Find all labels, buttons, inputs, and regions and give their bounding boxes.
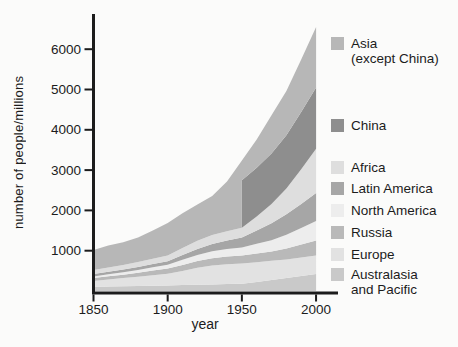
y-tick: [85, 48, 93, 50]
x-tick-label: 1900: [153, 302, 183, 317]
x-tick-label: 1950: [227, 302, 257, 317]
x-tick: [241, 295, 243, 302]
legend-swatch-europe: [331, 248, 344, 261]
x-tick: [167, 295, 169, 302]
x-axis-line: [92, 292, 338, 295]
legend-label-latin_america: Latin America: [351, 181, 433, 196]
legend-label-africa: Africa: [351, 160, 386, 175]
legend-label-australasia_pacific: Australasia and Pacific: [351, 267, 418, 297]
chart-legend: Asia (except China)ChinaAfricaLatin Amer…: [331, 36, 457, 297]
y-axis-line: [92, 14, 95, 294]
legend-swatch-china: [331, 119, 344, 132]
y-tick-label: 2000: [51, 203, 81, 218]
legend-swatch-africa: [331, 161, 344, 174]
x-tick: [315, 295, 317, 302]
y-tick: [85, 250, 93, 252]
legend-label-north_america: North America: [351, 203, 437, 218]
x-tick-label: 2000: [301, 302, 331, 317]
legend-item-europe: Europe: [331, 247, 457, 262]
y-tick-label: 3000: [51, 163, 81, 178]
y-tick: [85, 169, 93, 171]
legend-item-asia_except_china: Asia (except China): [331, 36, 457, 66]
legend-label-asia_except_china: Asia (except China): [351, 36, 439, 66]
y-tick-label: 5000: [51, 82, 81, 97]
legend-label-europe: Europe: [351, 247, 395, 262]
y-tick-label: 4000: [51, 122, 81, 137]
x-axis-title: year: [94, 316, 316, 332]
legend-item-latin_america: Latin America: [331, 181, 457, 196]
legend-swatch-north_america: [331, 204, 344, 217]
y-tick-label: 6000: [51, 42, 81, 57]
legend-item-china: China: [331, 118, 457, 133]
y-tick-label: 1000: [51, 243, 81, 258]
legend-swatch-asia_except_china: [331, 37, 344, 50]
legend-item-north_america: North America: [331, 203, 457, 218]
legend-item-australasia_pacific: Australasia and Pacific: [331, 267, 457, 297]
population-by-region-stacked-area-chart: number of people/millions 10002000300040…: [0, 0, 458, 347]
legend-item-africa: Africa: [331, 160, 457, 175]
x-tick-label: 1850: [78, 302, 108, 317]
y-tick: [85, 89, 93, 91]
legend-swatch-australasia_pacific: [331, 268, 344, 281]
legend-label-russia: Russia: [351, 225, 392, 240]
x-tick: [93, 295, 95, 302]
legend-swatch-russia: [331, 226, 344, 239]
legend-item-russia: Russia: [331, 225, 457, 240]
y-tick: [85, 209, 93, 211]
legend-label-china: China: [351, 118, 386, 133]
legend-swatch-latin_america: [331, 182, 344, 195]
y-tick: [85, 129, 93, 131]
